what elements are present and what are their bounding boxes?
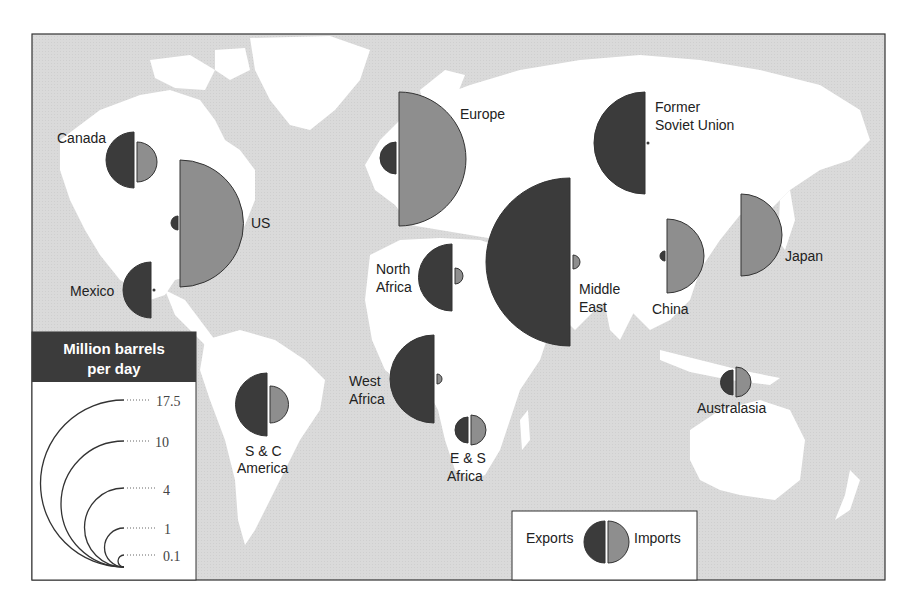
sc-america-label-1: S & C [245,443,282,459]
key-legend: Exports Imports [512,511,697,580]
fsu-imports [647,142,650,145]
size-legend-title-2: per day [87,360,141,377]
scale-tick-label: 4 [163,483,170,498]
japan-label: Japan [785,248,823,264]
es-africa-label-1: E & S [450,450,486,466]
oil-trade-map: Canada US Mexico S & C America Europe Fo… [0,0,911,607]
china-label: China [652,301,689,317]
north-africa-label-1: North [376,261,410,277]
scale-tick-label: 0.1 [163,549,181,564]
key-exports-label: Exports [526,530,573,546]
scale-tick-label: 17.5 [156,394,181,409]
mexico-label: Mexico [70,283,115,299]
australasia-label: Australasia [697,400,766,416]
scale-tick-label: 10 [155,435,169,450]
middle-east-label-2: East [579,299,607,315]
west-africa-label-2: Africa [349,391,385,407]
es-africa-label-2: Africa [447,468,483,484]
west-africa-label-1: West [349,373,381,389]
fsu-label-2: Soviet Union [655,117,734,133]
north-africa-label-2: Africa [376,279,412,295]
canada-label: Canada [57,130,106,146]
size-legend: Million barrels per day 17.5 10 4 1 0.1 [32,332,196,580]
mexico-imports [153,289,156,292]
key-imports-label: Imports [634,530,681,546]
scale-tick-label: 1 [164,522,171,537]
fsu-label-1: Former [655,99,700,115]
middle-east-label-1: Middle [579,281,620,297]
size-legend-title-1: Million barrels [63,340,165,357]
us-label: US [251,215,270,231]
sc-america-label-2: America [237,460,289,476]
europe-label: Europe [460,106,505,122]
